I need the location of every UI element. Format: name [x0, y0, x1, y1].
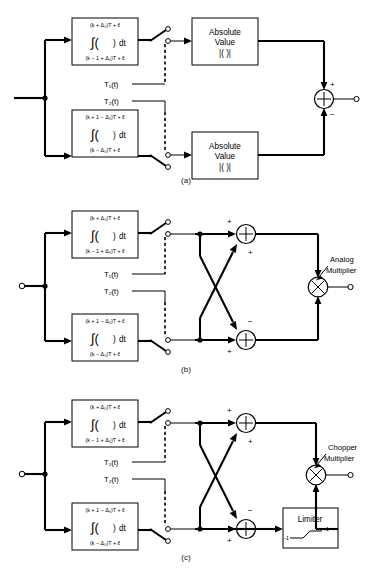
cross-diagonal-down: [200, 445, 233, 511]
panel-a-diagram: (k + Δ₀)T + ɛ̂ ∫( ) dt (k − 1 + Δ₀)T + ɛ…: [0, 0, 372, 196]
abs-line2: Value: [215, 38, 236, 47]
integrator-upper-limit: (k + 1 − Δ₀)T + ɛ̂: [85, 318, 125, 324]
summer-bottom-straight-sign: +: [227, 536, 232, 545]
summer-sign-bottom: −: [330, 110, 335, 119]
output-terminal[interactable]: [348, 472, 353, 477]
summer-top-straight-sign: +: [227, 406, 232, 415]
integrator-lower-limit: (k − 1 + Δ₀)T + ɛ̂: [85, 437, 125, 443]
integrator-lower-limit: (k − Δ₀)T + ɛ̂: [90, 540, 121, 546]
integrator-upper-limit: (k + Δ₀)T + ɛ̂: [90, 22, 121, 28]
abs-line2: Value: [215, 152, 236, 161]
integrator-lower-limit: (k − Δ₀)T + ɛ̂: [90, 147, 121, 153]
integral-symbol: ∫(: [90, 228, 100, 243]
switch-blade-top: [150, 30, 166, 41]
integrator-upper-limit: (k + Δ₀)T + ɛ̂: [90, 215, 121, 221]
arrow-head: [184, 38, 192, 45]
integrator-dt: dt: [119, 39, 127, 48]
switch-contact-closed-bottom: [166, 153, 171, 158]
multiplier-label-line1: Chopper: [328, 443, 358, 452]
switch-contact-closed-bottom: [166, 527, 171, 532]
output-terminal: [354, 96, 359, 101]
integrand-close: ): [113, 39, 116, 48]
arrow-head: [64, 153, 72, 160]
switch-label-t1: T₁(t): [104, 458, 119, 467]
panel-c-diagram: (k + Δ₀)T + ɛ̂ ∫( ) dt (k − 1 + Δ₀)T + ɛ…: [0, 386, 372, 574]
arrow-head: [64, 230, 72, 237]
arrow-head: [275, 526, 283, 533]
integral-symbol: ∫(: [90, 417, 100, 432]
arrow-head: [228, 231, 236, 238]
switch-label-t2: T₂(t): [104, 475, 119, 484]
junction-dot: [42, 283, 47, 288]
arrow-head: [64, 338, 72, 345]
panel-a: (k + Δ₀)T + ɛ̂ ∫( ) dt (k − 1 + Δ₀)T + ɛ…: [0, 0, 372, 196]
arrow-head: [230, 433, 237, 442]
abs-line3: |( )|: [219, 49, 231, 58]
switch-label-t2: T₂(t): [104, 287, 119, 296]
junction-dot: [42, 471, 47, 476]
switch-label-t1: T₁(t): [104, 80, 119, 89]
integral-symbol: ∫(: [90, 331, 100, 346]
switch-contact-open-top: [166, 27, 171, 32]
cross-diagonal-down: [200, 256, 233, 322]
integrator-dt: dt: [119, 524, 127, 533]
junction-dot: [42, 95, 47, 100]
switch-contact-open-bottom: [166, 539, 171, 544]
cross-diagonal-up: [200, 252, 233, 318]
switch-label-t1: T₁(t): [104, 270, 119, 279]
multiplier-label-line2: Multiplier: [324, 454, 355, 463]
integrator-upper-limit: (k + Δ₀)T + ɛ̂: [90, 404, 121, 410]
switch-contact-open-top: [166, 220, 171, 225]
integrator-dt: dt: [119, 421, 127, 430]
integrator-dt: dt: [119, 232, 127, 241]
integrand-close: ): [113, 421, 116, 430]
panel-caption-a: (a): [0, 176, 372, 185]
arrow-head: [228, 420, 236, 427]
switch-contact-closed-top: [166, 232, 171, 237]
switch-contact-closed-top: [166, 39, 171, 44]
integrator-lower-limit: (k − 1 + Δ₀)T + ɛ̂: [85, 55, 125, 61]
input-terminal-c[interactable]: [19, 471, 25, 477]
switch-contact-open-bottom: [166, 165, 171, 170]
abs-line3: |( )|: [219, 163, 231, 172]
summer-top-straight-sign: +: [227, 217, 232, 226]
limiter-low-value: −1: [283, 535, 289, 541]
integrator-dt: dt: [119, 335, 127, 344]
integral-symbol: ∫(: [90, 35, 100, 50]
arrow-head: [230, 321, 237, 330]
switch-blade-top: [150, 412, 166, 423]
limiter-label: Limiter: [298, 515, 323, 524]
switch-contact-closed-bottom: [166, 338, 171, 343]
integrator-lower-limit: (k − Δ₀)T + ɛ̂: [90, 351, 121, 357]
arrow-head: [228, 337, 236, 344]
arrow-head: [321, 108, 328, 116]
arrow-head: [64, 527, 72, 534]
switch-blade-top: [150, 223, 166, 234]
panel-caption-c: (c): [0, 553, 372, 562]
arrow-head: [230, 244, 237, 253]
integrand-close: ): [113, 335, 116, 344]
input-terminal-b[interactable]: [19, 283, 25, 289]
switch-contact-closed-top: [166, 421, 171, 426]
integrator-dt: dt: [119, 131, 127, 140]
switch-blade-bottom: [150, 340, 166, 351]
summer-bottom-cross-sign: −: [248, 506, 253, 515]
integrand-close: ): [113, 524, 116, 533]
multiplier-label-line2: Multiplier: [326, 266, 357, 275]
arrow-head: [230, 510, 237, 519]
integrand-close: ): [113, 131, 116, 140]
arrow-head: [184, 152, 192, 159]
panel-c: (k + Δ₀)T + ɛ̂ ∫( ) dt (k − 1 + Δ₀)T + ɛ…: [0, 386, 372, 574]
summer-bottom-straight-sign: +: [227, 347, 232, 356]
summer-bottom-cross-sign: −: [248, 317, 253, 326]
integrator-upper-limit: (k + 1 − Δ₀)T + ɛ̂: [85, 507, 125, 513]
integral-symbol: ∫(: [90, 520, 100, 535]
switch-contact-open-bottom: [166, 350, 171, 355]
abs-line1: Absolute: [209, 142, 241, 151]
arrow-head: [64, 37, 72, 44]
output-terminal[interactable]: [348, 284, 353, 289]
summer-top-cross-sign: +: [248, 248, 253, 257]
panel-caption-b: (b): [0, 365, 372, 374]
integrator-lower-limit: (k − 1 + Δ₀)T + ɛ̂: [85, 248, 125, 254]
arrow-head: [321, 82, 328, 90]
